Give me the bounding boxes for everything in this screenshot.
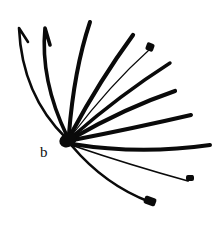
tip-blob-b2 (186, 175, 194, 181)
stroke-s11 (72, 146, 150, 202)
stroke-s5 (72, 50, 149, 135)
radiating-strokes (19, 22, 210, 202)
stroke-s2 (44, 28, 67, 136)
stroke-s9 (72, 144, 210, 150)
tip-blob-b1 (145, 42, 155, 52)
panel-label: b (40, 145, 48, 160)
tip-blob-b3 (143, 195, 157, 207)
tuft-drawing (0, 0, 223, 228)
